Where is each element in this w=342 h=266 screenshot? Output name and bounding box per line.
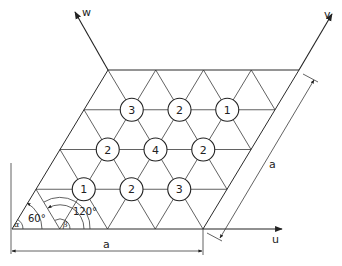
v-axis-label: v [324,8,331,21]
lattice-site: 1 [216,98,239,121]
v-axis-arrow [299,14,332,70]
site-label: 4 [152,144,159,157]
site-label: 2 [104,144,111,157]
right-dimension-label: a [269,158,276,171]
right-extension-top [303,74,318,82]
lattice-site: 3 [168,178,191,201]
lattice-site: 2 [168,98,191,121]
lattice-site: 1 [72,178,95,201]
alpha-symbol: α [14,220,20,229]
site-label: 2 [128,183,135,196]
alpha-value-label: 60° [28,213,46,224]
lattice-site: 4 [144,138,167,161]
lattice-site: 2 [96,138,119,161]
site-label: 3 [176,183,183,196]
bottom-dimension-label: a [103,238,110,251]
site-label: 1 [80,183,87,196]
lattice-site: 2 [192,138,215,161]
lattice-sites: 123242321 [72,98,239,201]
lattice-diagram: w v u a a α 60° β 120° 123242321 [0,0,342,266]
lattice-site: 3 [120,98,143,121]
beta-value-label: 120° [73,206,97,217]
w-axis-arrow [75,12,108,70]
u-axis-label: u [272,233,279,246]
site-label: 2 [200,144,207,157]
right-extension-bottom [207,233,222,241]
site-label: 1 [224,104,231,117]
grid-line-diagonal [251,70,275,110]
w-axis-label: w [82,6,91,19]
beta-symbol: β [62,220,68,229]
grid-line-diagonal [156,70,227,189]
site-label: 3 [128,104,135,117]
site-label: 2 [176,104,183,117]
lattice-site: 2 [120,178,143,201]
